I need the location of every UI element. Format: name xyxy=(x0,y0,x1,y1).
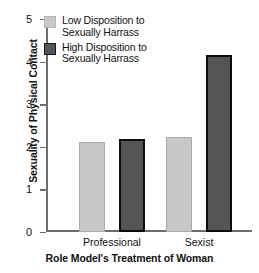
legend-item-high: High Disposition to Sexually Harrass xyxy=(44,42,194,66)
x-category-label-professional: Professional xyxy=(83,236,141,248)
x-category-label-sexist: Sexist xyxy=(185,236,214,248)
bar-sexist-high xyxy=(206,55,232,232)
y-tick-label-5: 5 xyxy=(26,14,32,25)
bar-professional-high xyxy=(119,139,145,232)
legend-swatch-low-icon xyxy=(44,16,56,28)
legend-label-high-line1: High Disposition to xyxy=(62,41,147,53)
bar-sexist-low xyxy=(166,137,192,232)
y-tick-label-4: 4 xyxy=(26,56,32,67)
bar-chart-figure: Sexuality of Physical Contact 012345 Pro… xyxy=(0,0,259,273)
legend-label-high-line2: Sexually Harrass xyxy=(62,52,139,64)
chart-legend: Low Disposition to Sexually Harrass High… xyxy=(44,15,194,68)
legend-label-low-line1: Low Disposition to xyxy=(62,14,145,26)
y-tick-0: 0 xyxy=(40,232,46,233)
legend-swatch-high-icon xyxy=(44,43,56,55)
y-tick-label-2: 2 xyxy=(26,141,32,152)
y-tick-label-1: 1 xyxy=(26,184,32,195)
legend-label-low-line2: Sexually Harrass xyxy=(62,26,139,38)
y-tick-label-0: 0 xyxy=(26,227,32,238)
y-tick-label-3: 3 xyxy=(26,99,32,110)
legend-label-low: Low Disposition to Sexually Harrass xyxy=(62,15,145,39)
legend-label-high: High Disposition to Sexually Harrass xyxy=(62,42,147,66)
legend-item-low: Low Disposition to Sexually Harrass xyxy=(44,15,194,39)
x-axis-title: Role Model's Treatment of Woman xyxy=(0,252,259,264)
bar-professional-low xyxy=(79,142,105,232)
y-axis-title: Sexuality of Physical Contact xyxy=(27,16,39,206)
